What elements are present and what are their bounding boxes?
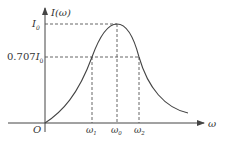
omega1-label: ω1 xyxy=(86,125,97,136)
resonance-diagram: I(ω) I0 0.707I0 O ω1 ω0 ω2 ω xyxy=(0,0,225,147)
origin-label: O xyxy=(33,124,41,135)
omega2-label: ω2 xyxy=(134,125,145,136)
x-axis-label: ω xyxy=(208,118,216,129)
y-axis-label: I(ω) xyxy=(50,7,71,18)
resonance-curve xyxy=(45,24,188,123)
peak-label: I0 xyxy=(31,18,40,31)
half-power-label: 0.707I0 xyxy=(7,51,44,64)
omega0-label: ω0 xyxy=(111,125,122,136)
